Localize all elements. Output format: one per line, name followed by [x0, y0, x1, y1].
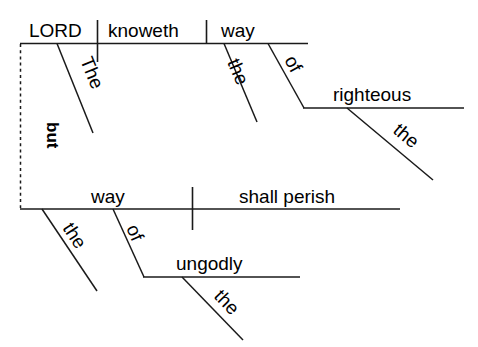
modifier-slant-the-way-lower [42, 209, 97, 291]
word-the-ungodly: the [210, 285, 243, 319]
word-but-connector: but [43, 122, 62, 149]
upper-clause-group: LORD knoweth way The the of righteous th… [20, 20, 464, 180]
diagram-svg: LORD knoweth way The the of righteous th… [0, 0, 478, 347]
modifier-slant-the-righteous [347, 108, 433, 180]
word-way-lower: way [90, 186, 125, 207]
word-of-lower: of [122, 221, 148, 245]
lower-clause-group: way shall perish the of ungodly the [20, 186, 400, 340]
word-knoweth: knoweth [108, 20, 179, 41]
word-way-upper: way [220, 20, 255, 41]
word-the-lord: The [76, 54, 108, 92]
word-shall-perish: shall perish [239, 186, 335, 207]
clause-connector-group: but [21, 44, 63, 208]
word-righteous: righteous [333, 84, 411, 105]
word-ungodly: ungodly [176, 253, 243, 274]
sentence-diagram-canvas: LORD knoweth way The the of righteous th… [0, 0, 478, 347]
word-the-way-upper: the [223, 55, 253, 88]
word-the-way-lower: the [59, 219, 91, 253]
word-lord: LORD [29, 20, 82, 41]
